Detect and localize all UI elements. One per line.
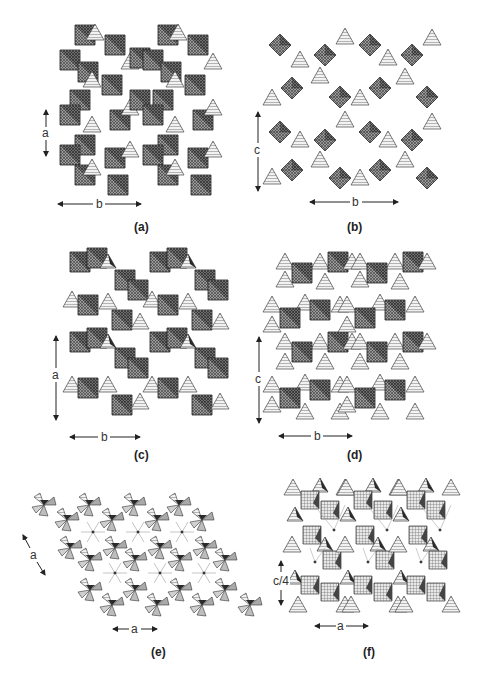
panel-a-caption: (a) <box>134 220 149 234</box>
panel-c-axis-a-label: a <box>51 369 60 381</box>
panel-f-structure <box>283 478 460 612</box>
panel-d-axis-b-label: b <box>313 430 322 442</box>
panel-c-axis-b-label: b <box>100 431 109 443</box>
panel-f-caption: (f) <box>363 645 375 659</box>
panel-b-caption: (b) <box>347 220 362 234</box>
panel-a-axis-b-label: b <box>95 198 104 210</box>
panel-e-axis-a-horizontal-label: a <box>130 623 139 635</box>
panel-c-structure <box>63 248 229 415</box>
panel-e-axis-a-diagonal-label: a <box>29 549 38 561</box>
panel-c-caption: (c) <box>134 448 149 462</box>
panel-d-structure <box>263 252 436 419</box>
panel-f-axis-c4-label: c/4 <box>272 575 290 587</box>
panel-f-axis-a-label: a <box>336 620 345 632</box>
crystal-structure-figure: a b (a) c b (b) a b (c) c b (d) a a (e) … <box>0 0 490 684</box>
figure-canvas <box>0 0 490 684</box>
panel-a-structure <box>60 24 222 195</box>
panel-d-axis-c-label: c <box>254 373 262 385</box>
panel-d-caption: (d) <box>347 448 362 462</box>
panel-b-axis-b-label: b <box>351 196 360 208</box>
panel-e-structure <box>32 493 262 616</box>
panel-a-axis-a-label: a <box>41 127 50 139</box>
panel-e-caption: (e) <box>151 645 166 659</box>
panel-b-axis-c-label: c <box>253 144 261 156</box>
panel-b-structure <box>263 28 441 189</box>
